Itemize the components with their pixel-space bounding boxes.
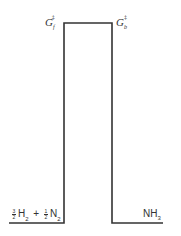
backward-barrier-label: Gb‡ (116, 16, 127, 28)
barrier-path (9, 23, 163, 223)
forward-barrier-label: Gf‡ (45, 16, 55, 28)
coefficient-one-half: 12 (44, 209, 48, 220)
coefficient-three-halves: 32 (12, 209, 16, 220)
products-label: NH3 (143, 208, 161, 219)
reactants-label: 32H2 + 12N2 (12, 208, 61, 220)
energy-profile (0, 0, 181, 236)
